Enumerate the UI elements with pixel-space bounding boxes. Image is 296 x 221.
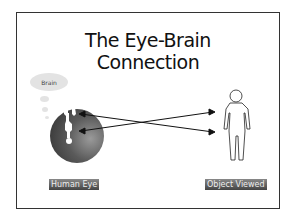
arrow-line-1 [81,114,213,132]
arrowhead-eye-bottom [79,128,85,134]
light-ray-arrows [79,109,215,135]
diagram-overlay [0,0,296,221]
inverted-figure-icon [64,108,76,144]
arrowhead-eye-top [79,111,85,117]
arrowhead-object-bottom [209,129,215,135]
arrow-line-2 [81,112,213,131]
person-outline-icon [224,90,250,160]
arrowhead-object-top [209,109,215,115]
